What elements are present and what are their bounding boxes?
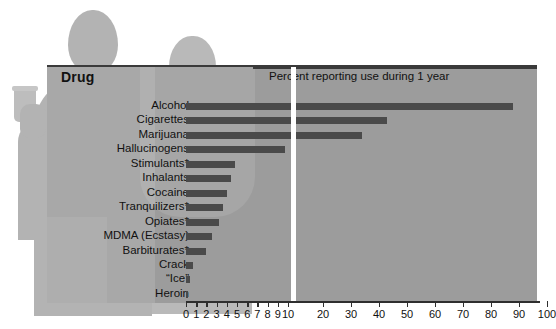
x-axis-tick-label: 4 (224, 308, 230, 320)
bar (186, 117, 387, 124)
bar-row-label: Marijuana (139, 128, 190, 140)
bar-row-label: MDMA (Ecstasy) (103, 229, 189, 241)
x-axis: 0123456789102030405060708090100 (47, 301, 545, 329)
x-axis-tick (435, 301, 436, 307)
x-axis-tick (351, 301, 352, 307)
x-axis-tick-label: 9 (275, 308, 281, 320)
bar (186, 146, 285, 153)
x-axis-tick-label: 3 (214, 308, 220, 320)
x-axis-tick (217, 301, 218, 307)
x-axis-tick (491, 301, 492, 307)
bar (186, 132, 362, 139)
x-axis-tick-label: 7 (254, 308, 260, 320)
x-axis-tick (206, 301, 207, 307)
x-axis-tick-label: 50 (401, 308, 413, 320)
x-axis-tick (186, 301, 187, 307)
bar-row-label: Heroin (155, 287, 189, 299)
x-axis-tick (268, 301, 269, 307)
axis-break-marker (291, 67, 296, 303)
x-axis-tick-label: 2 (203, 308, 209, 320)
person-silhouette-front-hand (20, 104, 46, 138)
bar (186, 291, 188, 298)
bar (186, 103, 513, 110)
x-axis-tick (227, 301, 228, 307)
bar (186, 161, 235, 168)
x-axis-tick (288, 301, 289, 307)
bar-row-label: Alcohol (151, 99, 189, 111)
x-axis-tick (196, 301, 197, 307)
x-axis-tick-label: 90 (513, 308, 525, 320)
x-axis-tick-label: 0 (183, 308, 189, 320)
chart-title: Percent reporting use during 1 year (269, 70, 449, 82)
x-axis-tick (519, 301, 520, 307)
bar (186, 233, 212, 240)
chart-panel: Drug Percent reporting use during 1 year… (47, 65, 537, 303)
x-axis-tick-label: 20 (317, 308, 329, 320)
bar-row-label: Opiates* (145, 215, 189, 227)
x-axis-tick (547, 301, 548, 307)
x-axis-tick (257, 301, 258, 307)
x-axis-tick (407, 301, 408, 307)
bar (186, 262, 193, 269)
bar-row-label: Inhalants (142, 171, 189, 183)
bar (186, 175, 231, 182)
bar (186, 276, 190, 283)
x-axis-tick-label: 5 (234, 308, 240, 320)
x-axis-tick-label: 1 (193, 308, 199, 320)
x-axis-tick-label: 40 (373, 308, 385, 320)
bar (186, 248, 206, 255)
x-axis-tick-label: 8 (265, 308, 271, 320)
x-axis-tick (237, 301, 238, 307)
bar-row-label: Hallucinogens (117, 142, 189, 154)
drinking-glass-rim-icon (12, 86, 38, 91)
x-axis-line (186, 301, 540, 303)
bar-row-label: Stimulants* (131, 157, 189, 169)
x-axis-tick (323, 301, 324, 307)
bar (186, 190, 227, 197)
x-axis-tick-label: 60 (429, 308, 441, 320)
x-axis-tick-label: 6 (244, 308, 250, 320)
x-axis-tick-label: 30 (345, 308, 357, 320)
x-axis-tick-label: 100 (538, 308, 556, 320)
x-axis-tick (278, 301, 279, 307)
bar-row-label: Cocaine (147, 186, 189, 198)
axis-break-marker-lower (291, 232, 296, 248)
x-axis-tick-label: 70 (457, 308, 469, 320)
bar-row-label: Crack (159, 258, 189, 270)
x-axis-tick (463, 301, 464, 307)
bar-row-label: Cigarettes (137, 113, 189, 125)
bar-row-label: Barbiturates* (123, 244, 189, 256)
x-axis-tick (247, 301, 248, 307)
x-axis-tick-label: 80 (485, 308, 497, 320)
bar-row-label: Tranquilizers* (119, 200, 189, 212)
drug-column-header: Drug (61, 69, 94, 85)
x-axis-tick (379, 301, 380, 307)
bar (186, 204, 223, 211)
bar (186, 219, 219, 226)
x-axis-tick-label: 10 (282, 308, 294, 320)
